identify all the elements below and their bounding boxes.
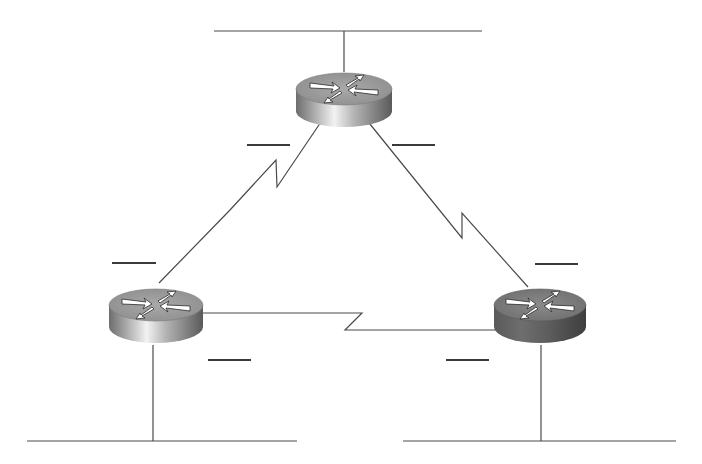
lan-segment-bottom-right [403,345,676,441]
serial-link-top-left [159,113,327,283]
lan-segment-bottom-left [27,345,297,441]
router-right-icon [494,289,586,343]
router-top-icon [296,73,392,127]
serial-link-top-right [361,113,528,287]
router-left-icon [109,289,203,343]
lan-segment-top [214,31,482,72]
serial-link-left-right [200,313,496,330]
network-topology-diagram [0,0,702,464]
